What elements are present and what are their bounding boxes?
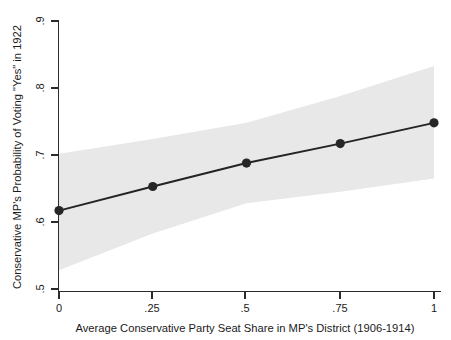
y-tick-label: .5 (34, 284, 46, 293)
x-tick-label: 0 (56, 302, 62, 314)
confidence-interval-band (59, 66, 434, 270)
x-tick-label: .75 (332, 302, 347, 314)
y-tick-label: .9 (34, 16, 46, 25)
y-tick-label: .8 (34, 83, 46, 92)
y-tick-label: .6 (34, 217, 46, 226)
y-axis-title: Conservative MP's Probability of Voting … (11, 25, 23, 289)
data-point-marker (429, 118, 438, 127)
x-axis-title: Average Conservative Party Seat Share in… (76, 322, 415, 334)
x-tick-label: 1 (431, 302, 437, 314)
y-tick-label: .7 (34, 150, 46, 159)
scatter-line-chart: .9 .8 .7 .6 .5 0 .25 .5 .75 1 Conservati… (0, 0, 451, 340)
data-point-marker (336, 139, 345, 148)
data-point-marker (242, 158, 251, 167)
figure-container: .9 .8 .7 .6 .5 0 .25 .5 .75 1 Conservati… (0, 0, 451, 340)
x-tick-label: .25 (144, 302, 159, 314)
data-point-marker (148, 182, 157, 191)
x-tick-label: .5 (240, 302, 249, 314)
